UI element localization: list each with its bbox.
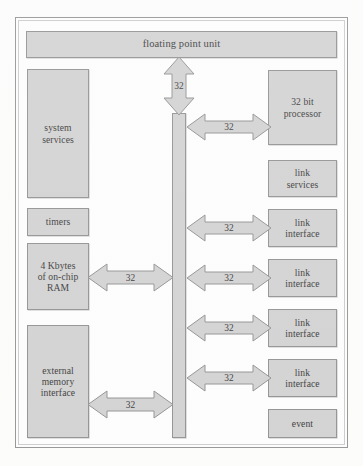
arrow-ram-to-bus: 32 [88,263,173,292]
block-label-link-interface-2: link interface [283,267,321,290]
arrow-bus-to-link-interface-3: 32 [187,314,271,342]
block-link-interface-4: link interface [268,359,337,397]
block-label-system-services: system services [40,122,76,145]
block-label-event: event [290,418,315,429]
block-label-external-memory-interface: external memory interface [39,365,77,399]
arrow-external-memory-interface-to-bus: 32 [88,390,173,419]
block-link-services: link services [268,160,337,197]
block-link-interface-3: link interface [268,309,337,347]
central-bus [172,113,186,438]
arrow-bus-to-processor: 32 [187,113,271,141]
arrow-bus-to-link-interface-2: 32 [187,264,271,292]
block-label-link-interface-3: link interface [283,317,321,340]
block-link-interface-2: link interface [268,259,337,297]
block-on-chip-ram: 4 Kbytes of on-chip RAM [27,243,89,310]
block-32-bit-processor: 32 bit processor [268,70,337,145]
block-timers: timers [27,208,89,236]
block-floating-point-unit: floating point unit [26,31,337,58]
block-link-interface-1: link interface [268,209,337,247]
transputer-block-diagram: floating point unit system services time… [0,0,363,466]
arrow-bus-to-floating-point-unit: 32 [163,57,195,115]
block-system-services: system services [27,69,89,198]
block-external-memory-interface: external memory interface [27,325,89,438]
arrow-bus-to-link-interface-4: 32 [187,364,271,392]
block-label-32-bit-processor: 32 bit processor [282,96,324,119]
block-label-timers: timers [44,216,73,227]
block-label-floating-point-unit: floating point unit [141,38,223,50]
arrow-bus-to-link-interface-1: 32 [187,214,271,242]
block-event: event [268,409,337,438]
block-label-link-interface-1: link interface [283,217,321,240]
block-label-on-chip-ram: 4 Kbytes of on-chip RAM [36,260,81,294]
block-label-link-interface-4: link interface [283,367,321,390]
block-label-link-services: link services [285,167,321,190]
